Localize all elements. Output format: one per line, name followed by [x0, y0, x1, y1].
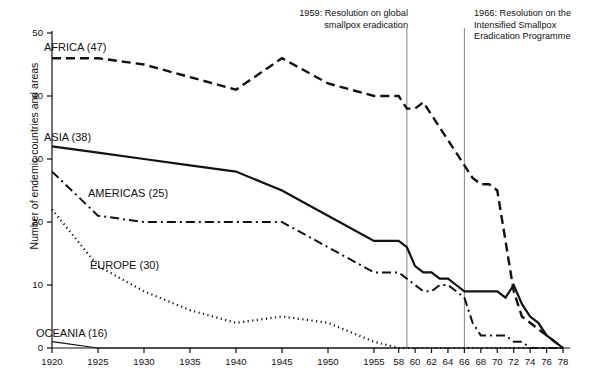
y-tick-label: 30 — [21, 153, 43, 164]
series-label-americas: AMERICAS (25) — [88, 187, 168, 199]
series-line-africa — [52, 58, 563, 348]
x-tick-label: 1945 — [266, 356, 298, 367]
annotation-1959: 1959: Resolution on global smallpox erad… — [236, 8, 408, 31]
series-label-oceania: OCEANIA (16) — [36, 327, 108, 339]
y-tick-label: 40 — [21, 90, 43, 101]
x-tick-label: 78 — [547, 356, 579, 367]
series-line-asia — [52, 146, 563, 348]
x-tick-label: 1940 — [220, 356, 252, 367]
x-tick-label: 1920 — [36, 356, 68, 367]
series-label-africa: AFRICA (47) — [44, 41, 106, 53]
chart-container: Number of endemic countries and areas 19… — [0, 0, 602, 380]
x-tick-label: 1925 — [82, 356, 114, 367]
series-label-europe: EUROPE (30) — [90, 259, 159, 271]
x-tick-label: 1950 — [312, 356, 344, 367]
series-line-europe — [52, 209, 563, 348]
y-tick-label: 50 — [21, 27, 43, 38]
y-tick-label: 20 — [21, 216, 43, 227]
series-label-asia: ASIA (38) — [44, 131, 91, 143]
y-tick-label: 0 — [21, 342, 43, 353]
x-tick-label: 1935 — [174, 356, 206, 367]
x-tick-label: 1930 — [128, 356, 160, 367]
annotation-1966: 1966: Resolution on the Intensified Smal… — [474, 8, 600, 43]
y-tick-label: 10 — [21, 279, 43, 290]
